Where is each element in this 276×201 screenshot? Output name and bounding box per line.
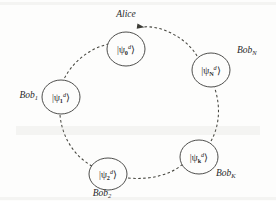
party-label-bob-1: Bob1 <box>19 90 38 101</box>
party-label-bob-k: BobK <box>216 168 236 179</box>
arc-bob1-to-bob2 <box>60 115 92 166</box>
node-psi-N[interactable]: |ψNd⟩ <box>192 53 230 87</box>
party-label-bob-n: BobN <box>237 45 257 56</box>
arc-bobk-to-bobn <box>211 89 218 141</box>
node-psi-0[interactable]: |ψ0d⟩ <box>107 32 145 66</box>
node-psi-1[interactable]: |ψ1d⟩ <box>42 80 80 114</box>
arc-alice-to-bob1 <box>64 44 109 79</box>
arc-bobn-to-alice <box>143 27 197 56</box>
party-label-alice: Alice <box>115 9 136 19</box>
arc-bob2-to-bobk <box>128 164 183 178</box>
node-psi-2[interactable]: |ψ2d⟩ <box>89 158 127 190</box>
quantum-ring-diagram: |ψ0d⟩ |ψNd⟩ |ψ1d⟩ |ψ2d⟩ |ψkd⟩ Alice BobN… <box>0 0 276 201</box>
node-psi-k[interactable]: |ψkd⟩ <box>180 140 218 174</box>
arrow-head-to-alice <box>137 23 145 29</box>
